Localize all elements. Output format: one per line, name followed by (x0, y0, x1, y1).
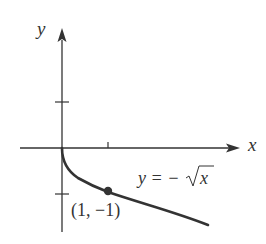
graph-figure: y x y = − x (1, −1) (0, 0, 266, 244)
x-axis-label: x (248, 134, 256, 156)
equation-label-radicand: x (200, 168, 208, 189)
point-1-neg1 (104, 187, 112, 195)
equation-label-lhs: y = − (138, 168, 179, 189)
point-label: (1, −1) (71, 200, 120, 221)
y-axis-label: y (37, 18, 45, 40)
y-axis-arrow-icon (58, 28, 67, 42)
